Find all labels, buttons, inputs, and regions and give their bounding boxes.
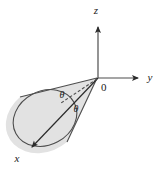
cone-diagram-figure: z y x 0 θ θ (0, 0, 167, 171)
theta-lower-label: θ (74, 103, 79, 114)
cone-solid (3, 78, 98, 157)
cone-diagram-canvas: z y x 0 θ θ (0, 0, 167, 171)
x-axis-label: x (14, 152, 20, 164)
origin-label: 0 (101, 81, 107, 93)
theta-upper-label: θ (60, 89, 65, 100)
z-axis-label: z (93, 4, 99, 16)
y-axis-label: y (147, 71, 153, 83)
